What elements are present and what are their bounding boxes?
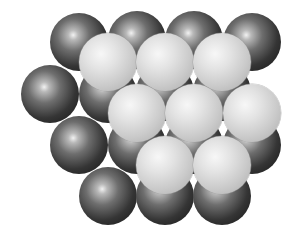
sphere-packing-diagram — [0, 0, 302, 245]
dark-sphere — [79, 167, 137, 225]
light-sphere — [223, 84, 281, 142]
light-sphere — [108, 84, 166, 142]
light-sphere — [79, 33, 137, 91]
light-sphere — [136, 136, 194, 194]
light-sphere — [165, 84, 223, 142]
light-sphere — [136, 33, 194, 91]
dark-sphere — [50, 116, 108, 174]
light-sphere — [193, 136, 251, 194]
light-sphere — [193, 33, 251, 91]
dark-sphere — [21, 65, 79, 123]
